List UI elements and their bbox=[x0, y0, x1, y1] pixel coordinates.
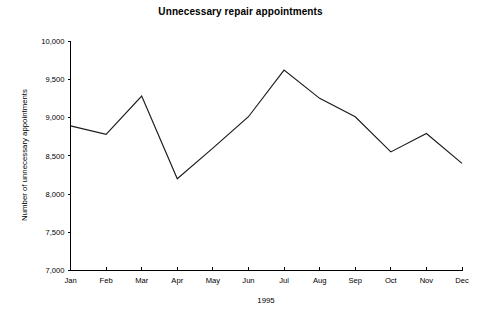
x-tick-label: Jul bbox=[279, 276, 289, 285]
x-tick-label: Aug bbox=[313, 276, 327, 285]
y-tick-label: 7,000 bbox=[45, 266, 64, 275]
chart-figure: Unnecessary repair appointments 7,0007,5… bbox=[0, 0, 481, 321]
y-tick-label: 8,500 bbox=[45, 152, 64, 161]
x-tick-label: Nov bbox=[420, 276, 434, 285]
x-tick-label: Apr bbox=[171, 276, 183, 285]
line-chart-plot: 7,0007,5008,0008,5009,0009,50010,000 Jan… bbox=[0, 0, 481, 321]
x-tick-label: Feb bbox=[100, 276, 113, 285]
y-axis-ticks: 7,0007,5008,0008,5009,0009,50010,000 bbox=[41, 37, 70, 275]
x-tick-label: May bbox=[206, 276, 221, 285]
y-tick-label: 7,500 bbox=[45, 228, 64, 237]
x-tick-label: Jun bbox=[242, 276, 254, 285]
x-tick-label: Jan bbox=[64, 276, 76, 285]
y-axis-title: Number of unnecessary appointments bbox=[20, 89, 29, 221]
x-tick-label: Oct bbox=[385, 276, 398, 285]
y-tick-label: 10,000 bbox=[41, 37, 64, 46]
y-tick-label: 8,000 bbox=[45, 190, 64, 199]
x-axis-title: 1995 bbox=[257, 296, 275, 305]
x-tick-label: Dec bbox=[455, 276, 469, 285]
data-series-line bbox=[71, 70, 463, 179]
x-tick-label: Sep bbox=[348, 276, 362, 285]
y-tick-label: 9,000 bbox=[45, 113, 64, 122]
y-tick-label: 9,500 bbox=[45, 75, 64, 84]
x-axis-ticks: JanFebMarAprMayJunJulAugSepOctNovDec bbox=[64, 267, 469, 285]
x-tick-label: Mar bbox=[135, 276, 149, 285]
